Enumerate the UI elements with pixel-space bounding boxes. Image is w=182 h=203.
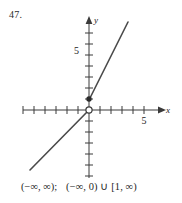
exercise-figure-page: 47.: [0, 0, 182, 203]
y-axis-label: y: [93, 15, 98, 25]
answer-domain: (−∞, ∞);: [21, 181, 57, 192]
x-axis-label: x: [165, 105, 170, 115]
curve-left-branch: [30, 111, 88, 170]
y-tick-label-5: 5: [74, 45, 79, 56]
y-axis-arrow-icon: [86, 16, 93, 24]
open-point-origin-icon: [86, 107, 92, 113]
answer-row: (−∞, ∞); (−∞, 0) ∪ [1, ∞): [0, 180, 182, 192]
x-tick-label-5: 5: [142, 115, 147, 126]
answer-range: (−∞, 0) ∪ [1, ∞): [66, 180, 137, 192]
closed-point-zero-one-icon: [86, 96, 91, 101]
x-axis-arrow-icon: [158, 107, 166, 114]
curve-right-branch: [90, 22, 129, 99]
coordinate-graph: x y 5 5: [0, 0, 182, 203]
